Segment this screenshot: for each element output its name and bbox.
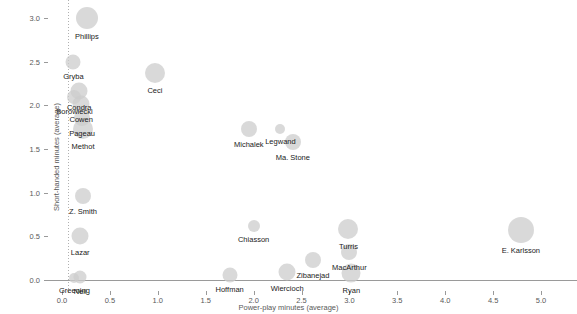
data-point-label: Ceci [147,86,162,95]
data-point-bubble[interactable] [66,54,81,69]
x-axis-baseline [48,280,577,281]
data-point-bubble[interactable] [279,264,296,281]
data-point-bubble[interactable] [76,7,98,29]
y-tick-label: 3.0 [16,14,40,23]
data-point-label: Legwand [265,137,295,146]
x-tick-label: 4.5 [488,296,498,305]
data-point-bubble[interactable] [72,228,89,245]
data-point-label: Lazar [71,248,90,257]
data-point-label: Z. Smith [69,207,97,216]
x-axis-title: Power-play minutes (average) [238,303,338,312]
y-tick-label: 2.0 [16,101,40,110]
x-tick-mark [445,291,446,295]
y-tick-mark [44,280,48,281]
data-point-bubble[interactable] [74,271,87,284]
data-point-label: MacArthur [332,263,367,272]
data-point-label: E. Karlsson [502,246,540,255]
plot-area: 0.00.51.01.52.02.53.00.00.51.01.52.02.53… [0,0,577,314]
y-tick-mark [44,236,48,237]
x-tick-label: 5.0 [536,296,546,305]
data-point-bubble[interactable] [305,252,321,268]
x-tick-label: 4.0 [440,296,450,305]
y-tick-label: 2.5 [16,57,40,66]
scatter-chart: 0.00.51.01.52.02.53.00.00.51.01.52.02.53… [0,0,577,314]
data-point-label: Chiasson [238,235,269,244]
x-tick-mark [254,291,255,295]
data-point-label: Phillips [75,32,99,41]
y-axis-title: Short-handed minutes (average) [52,103,61,211]
data-point-label: Turris [339,242,358,251]
data-point-bubble[interactable] [222,267,237,282]
x-tick-label: 3.0 [344,296,354,305]
data-point-label: Michalek [234,140,264,149]
x-tick-label: 1.0 [153,296,163,305]
x-tick-mark [110,291,111,295]
x-tick-mark [397,291,398,295]
data-point-bubble[interactable] [338,219,358,239]
y-tick-mark [44,149,48,150]
y-tick-mark [44,105,48,106]
data-point-label: Cowen [69,115,92,124]
data-point-bubble[interactable] [248,220,260,232]
x-tick-mark [158,291,159,295]
data-point-bubble[interactable] [145,63,165,83]
x-tick-label: 0.0 [57,296,67,305]
x-tick-mark [206,291,207,295]
x-tick-label: 1.5 [200,296,210,305]
x-tick-mark [541,291,542,295]
x-tick-label: 3.5 [392,296,402,305]
data-point-label: Gryba [63,72,83,81]
data-point-bubble[interactable] [241,121,257,137]
y-tick-label: 0.5 [16,232,40,241]
data-point-label: Ryan [343,286,361,295]
y-tick-mark [44,18,48,19]
x-tick-label: 0.5 [105,296,115,305]
data-point-bubble[interactable] [275,124,285,134]
data-point-label: Ma. Stone [276,153,310,162]
y-tick-label: 0.0 [16,276,40,285]
data-point-label: Pageau [69,129,95,138]
y-tick-mark [44,62,48,63]
data-point-bubble[interactable] [75,188,91,204]
y-tick-label: 1.5 [16,145,40,154]
data-point-label: Hoffman [216,285,244,294]
y-tick-mark [44,193,48,194]
data-point-label: Wiercioch [271,284,304,293]
data-point-label: Methot [72,142,95,151]
data-point-label: Zibanejad [297,271,330,280]
x-tick-mark [493,291,494,295]
data-point-bubble[interactable] [508,217,534,243]
data-point-label: Neil [74,287,87,296]
x-zero-reference-line [68,0,69,292]
y-tick-label: 1.0 [16,188,40,197]
